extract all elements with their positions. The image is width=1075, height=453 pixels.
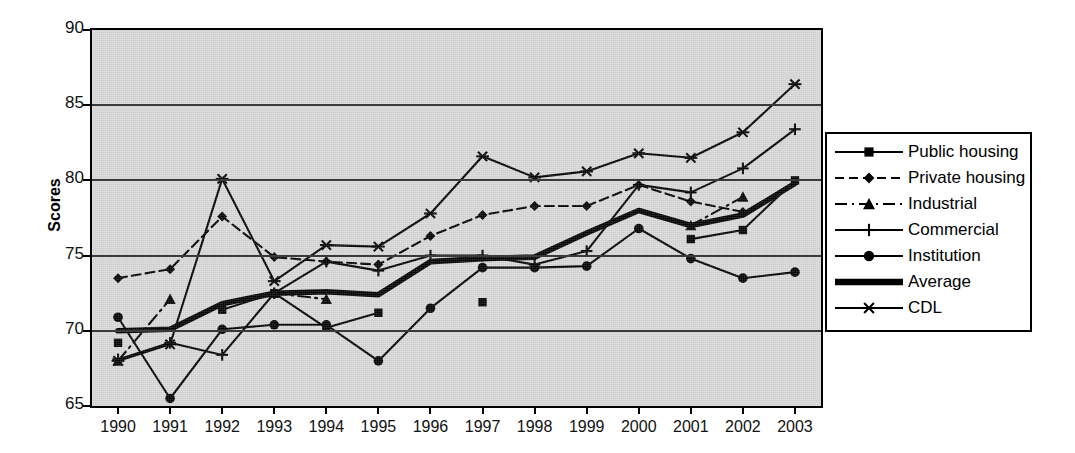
gridline [92, 104, 821, 106]
legend-label: Private housing [905, 168, 1025, 188]
legend-item-average[interactable]: Average [833, 269, 1024, 295]
chart-figure: Scores 657075808590 19901991199219931994… [0, 0, 1075, 453]
legend-item-industrial[interactable]: Industrial [833, 191, 1024, 217]
x-tick-mark [273, 406, 275, 414]
legend-item-commercial[interactable]: Commercial [833, 217, 1024, 243]
y-tick-label: 75 [44, 245, 84, 262]
x-tick-mark [794, 406, 796, 414]
y-tick-label: 85 [44, 94, 84, 111]
x-tick-mark [482, 406, 484, 414]
gridline [92, 255, 821, 257]
gridline [92, 330, 821, 332]
legend-label: CDL [905, 298, 942, 318]
legend-swatch-asterisk-icon [833, 297, 905, 319]
x-tick-label: 2003 [765, 418, 825, 436]
legend-label: Commercial [905, 220, 999, 240]
legend-item-institution[interactable]: Institution [833, 243, 1024, 269]
x-tick-label: 2002 [713, 418, 773, 436]
x-tick-label: 1994 [296, 418, 356, 436]
x-tick-mark [117, 406, 119, 414]
x-tick-mark [325, 406, 327, 414]
plot-texture [92, 30, 821, 406]
y-tick-mark [83, 104, 92, 106]
x-tick-label: 1996 [400, 418, 460, 436]
plot-inner [92, 30, 821, 406]
y-tick-mark [83, 255, 92, 257]
x-tick-label: 2001 [661, 418, 721, 436]
legend-swatch-square-icon [833, 141, 905, 163]
legend-label: Industrial [905, 194, 977, 214]
x-tick-label: 1991 [140, 418, 200, 436]
x-tick-label: 1999 [557, 418, 617, 436]
data-point-asterisk [862, 303, 876, 313]
y-tick-label: 70 [44, 320, 84, 337]
y-tick-label: 80 [44, 169, 84, 186]
legend-label: Public housing [905, 142, 1019, 162]
gridline [92, 179, 821, 181]
x-tick-mark [534, 406, 536, 414]
legend-item-public-housing[interactable]: Public housing [833, 139, 1024, 165]
plot-area [90, 28, 823, 408]
legend-item-private-housing[interactable]: Private housing [833, 165, 1024, 191]
legend-label: Institution [905, 246, 981, 266]
legend-label: Average [905, 272, 971, 292]
data-point-plus [863, 224, 875, 236]
legend-swatch-diamond-icon [833, 167, 905, 189]
legend-swatch-plus-icon [833, 219, 905, 241]
x-tick-mark [429, 406, 431, 414]
x-tick-label: 2000 [609, 418, 669, 436]
y-tick-mark [83, 330, 92, 332]
x-tick-label: 1993 [244, 418, 304, 436]
legend-swatch-triangle-icon [833, 193, 905, 215]
y-axis-tick-labels: 657075808590 [22, 0, 84, 453]
x-tick-mark [638, 406, 640, 414]
x-tick-mark [377, 406, 379, 414]
chart-legend: Public housingPrivate housingIndustrialC… [825, 132, 1032, 332]
x-tick-mark [586, 406, 588, 414]
x-tick-label: 1997 [453, 418, 513, 436]
data-point-circle [864, 251, 874, 261]
x-tick-mark [690, 406, 692, 414]
y-tick-label: 65 [44, 395, 84, 412]
y-tick-mark [83, 405, 92, 407]
x-tick-mark [169, 406, 171, 414]
x-tick-label: 1998 [505, 418, 565, 436]
legend-swatch-none-icon [833, 271, 905, 293]
legend-item-cdl[interactable]: CDL [833, 295, 1024, 321]
y-tick-mark [83, 179, 92, 181]
data-point-diamond [864, 173, 875, 184]
data-point-square [864, 147, 873, 156]
x-tick-mark [742, 406, 744, 414]
x-axis-tick-labels: 1990199119921993199419951996199719981999… [0, 418, 1075, 448]
x-tick-mark [221, 406, 223, 414]
y-tick-label: 90 [44, 19, 84, 36]
x-tick-label: 1992 [192, 418, 252, 436]
y-tick-mark [83, 29, 92, 31]
x-tick-label: 1995 [348, 418, 408, 436]
legend-swatch-circle-icon [833, 245, 905, 267]
x-tick-label: 1990 [88, 418, 148, 436]
